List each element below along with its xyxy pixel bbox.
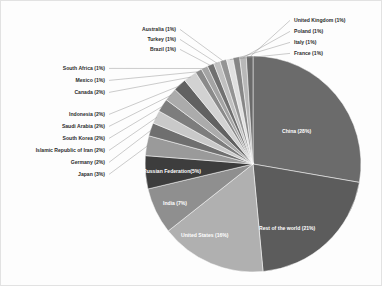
pie-chart-svg: China (28%)Rest of the world (21%)United… — [0, 0, 382, 286]
pie-slice-label: Rest of the world (21%) — [259, 225, 316, 231]
pie-slice-label: Italy (1%) — [294, 39, 317, 45]
pie-slice-label: Mexico (1%) — [76, 77, 106, 83]
leader-line — [180, 49, 211, 65]
pie-slice[interactable] — [253, 56, 361, 182]
leader-line — [109, 72, 199, 81]
pie-slice-label: Russian Federation(5%) — [143, 168, 201, 174]
pie-chart: China (28%)Rest of the world (21%)United… — [0, 0, 382, 286]
pie-slice-label: Canada (2%) — [74, 89, 105, 95]
pie-slice-label: South Africa (1%) — [63, 65, 106, 71]
leader-line — [180, 29, 223, 61]
pie-slice-label: Germany (2%) — [71, 159, 106, 165]
leader-line — [109, 146, 148, 175]
pie-slice-label: Turkey (1%) — [148, 36, 177, 42]
leader-line — [250, 20, 290, 57]
pie-slice-label: Islamic Republic of Iran (2%) — [36, 147, 106, 153]
pie-slice-label: Japan (3%) — [78, 171, 105, 177]
pie-slice-label: Brazil (1%) — [150, 46, 176, 52]
pie-slice[interactable] — [253, 164, 359, 272]
pie-slice-label: China (28%) — [282, 128, 311, 134]
pie-slice-label: India (7%) — [163, 200, 187, 206]
pie-slice-label: Indonesia (2%) — [69, 111, 105, 117]
pie-slice-label: United Kingdom (1%) — [294, 17, 346, 23]
pie-slice-label: Saudi Arabia (2%) — [62, 123, 105, 129]
pie-slice-label: United States (16%) — [181, 232, 229, 238]
pie-slice-label: France (1%) — [294, 50, 323, 56]
pie-slices-group — [145, 56, 361, 272]
pie-slice-label: South Korea (2%) — [63, 135, 106, 141]
pie-slice-label: Australia (1%) — [142, 26, 176, 32]
pie-slice-label: Poland (1%) — [294, 28, 323, 34]
